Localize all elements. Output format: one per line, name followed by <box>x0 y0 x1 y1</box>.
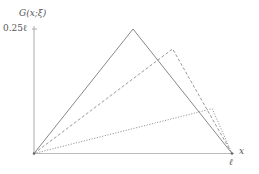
green-function-diagram: G(x;ξ) 0.25ℓ x ℓ <box>0 0 259 174</box>
x-end-label: ℓ <box>229 158 233 167</box>
origin-dot <box>33 152 35 154</box>
y-axis-label: G(x;ξ) <box>19 9 46 18</box>
curve-xi-0.5 <box>34 29 232 154</box>
diagram-canvas <box>0 0 259 174</box>
x-axis-label: x <box>239 147 244 156</box>
curve-xi-0.7 <box>34 49 232 154</box>
end-dot <box>231 152 233 154</box>
y-tick-label: 0.25ℓ <box>3 24 27 33</box>
